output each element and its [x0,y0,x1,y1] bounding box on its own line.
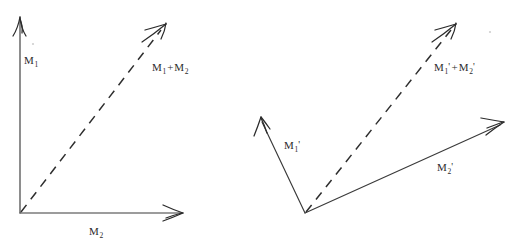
scan-speck-left-a [32,43,34,45]
label-sum-first-base: M [152,61,162,73]
m2-axis-arrowhead-lower [163,213,183,221]
label-m2-prime-base: M [437,161,447,173]
label-m1-prime-plus-m2-prime: M1'+M2' [434,62,475,73]
right-panel-group [254,23,504,213]
label-m2-prime-mark: ' [451,161,453,172]
label-m2-subscript: 2 [99,231,103,240]
m1-prime-plus-m2-prime-shaft [306,30,451,212]
m2-prime-arrowhead-upper [481,118,504,122]
scan-speck-right-a [489,31,491,33]
label-m1: M1 [24,55,38,66]
label-sum-prime-second-base: M [459,61,469,73]
m2-prime-shaft [305,125,500,213]
label-m2: M2 [89,226,103,237]
m1-prime-shaft [262,122,305,213]
left-panel-group [13,17,183,221]
label-m2-prime: M2' [437,162,454,173]
label-m1-plus-m2: M1+M2 [152,62,189,73]
label-sum-second-base: M [174,61,184,73]
m1-plus-m2-arrowhead-barb-lower [142,24,166,42]
label-sum-second-subscript: 2 [185,67,189,76]
label-m1-prime: M1' [284,140,301,151]
label-m1-prime-mark: ' [298,139,300,150]
label-sum-prime-second-mark: ' [473,61,475,72]
m2-axis-arrowhead-upper [163,205,183,213]
label-m1-base: M [24,54,34,66]
label-sum-prime-first-base: M [434,61,444,73]
vector-diagram-figure: M1 M2 M1+M2 M1' M2' M1'+M2' [0,0,507,240]
m1-prime-arrowhead-left [254,117,261,136]
vector-diagram-canvas [0,0,507,240]
m1-plus-m2-shaft [21,30,161,212]
label-m1-subscript: 1 [34,60,38,69]
label-sum-prime-first-mark: ' [448,61,450,72]
m2-prime-arrowhead-lower [486,122,504,135]
label-m2-base: M [89,225,99,237]
label-sum-prime-operator: + [451,61,459,73]
label-m1-prime-base: M [284,139,294,151]
m1-prime-plus-m2-prime-arrowhead-barb-lower [432,24,456,42]
m1-axis-arrowhead-left [13,17,20,36]
label-sum-first-subscript: 1 [162,67,166,76]
